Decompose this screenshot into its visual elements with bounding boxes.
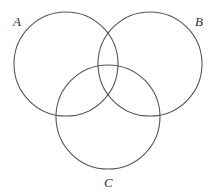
set-a-label: A bbox=[12, 14, 21, 29]
set-b-label: B bbox=[195, 14, 203, 29]
venn-diagram: A B C bbox=[0, 0, 213, 192]
set-c-label: C bbox=[104, 175, 113, 190]
set-a-circle bbox=[14, 12, 118, 116]
set-c-circle bbox=[56, 65, 160, 169]
set-b-circle bbox=[98, 12, 202, 116]
